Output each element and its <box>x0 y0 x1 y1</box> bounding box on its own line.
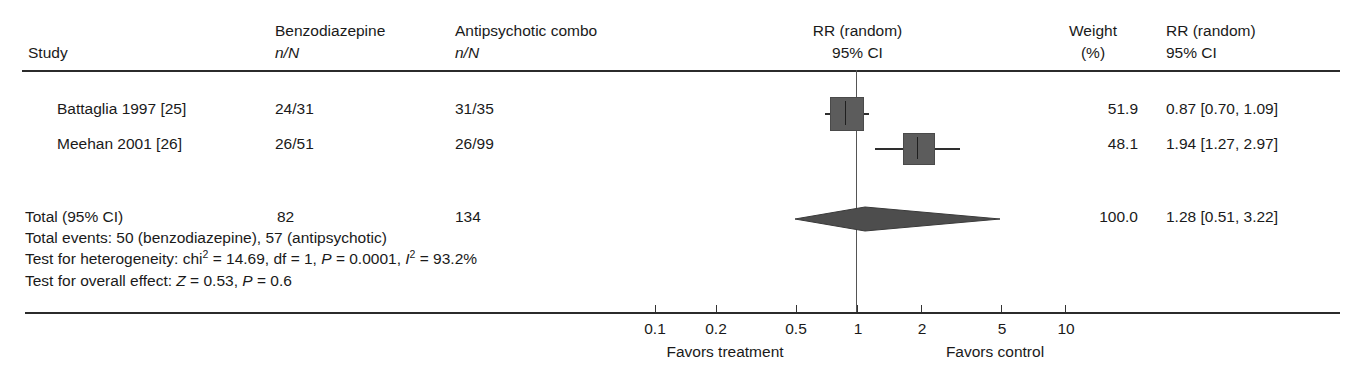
column-header-plot-ci: 95% CI <box>745 44 970 61</box>
study-effect-center-tick <box>917 137 918 159</box>
p-value: = 0.0001, <box>332 250 406 267</box>
axis-tick-label: 2 <box>892 320 952 338</box>
axis-tick-0.1 <box>655 305 656 312</box>
column-header-treatment-group: Benzodiazepine <box>275 22 385 39</box>
axis-tick-label: 5 <box>972 320 1032 338</box>
p-symbol: P <box>242 272 252 289</box>
axis-tick-1 <box>857 305 858 312</box>
heterogeneity-line: Test for heterogeneity: chi2 = 14.69, df… <box>25 250 477 268</box>
total-row-weight-value: 100.0 <box>1040 208 1138 225</box>
heterogeneity-label: Test for heterogeneity: chi <box>25 250 203 267</box>
column-header-control-group: Antipsychotic combo <box>455 22 597 39</box>
total-row-effect-value: 1.28 [0.51, 3.22] <box>1166 208 1278 225</box>
total-row-treatment-value: 82 <box>277 208 294 225</box>
p-symbol: P <box>321 250 331 267</box>
axis-tick-label: 0.2 <box>686 320 746 338</box>
z-symbol: Z <box>176 272 185 289</box>
overall-effect-label: Test for overall effect: <box>25 272 176 289</box>
table-row-weight-value: 51.9 <box>1040 100 1138 117</box>
axis-tick-label: 0.1 <box>625 320 685 338</box>
overall-effect-line: Test for overall effect: Z = 0.53, P = 0… <box>25 272 292 290</box>
forest-plot-figure: Study Benzodiazepine n/N Antipsychotic c… <box>0 0 1360 370</box>
table-row-treatment-value: 24/31 <box>275 100 314 117</box>
column-header-weight-unit: (%) <box>1048 44 1138 61</box>
table-row-study-name: Battaglia 1997 [25] <box>57 100 186 117</box>
overall-p-value: = 0.6 <box>253 272 292 289</box>
z-value: = 0.53, <box>186 272 242 289</box>
axis-tick-label: 1 <box>828 320 888 338</box>
study-effect-marker <box>903 133 935 165</box>
column-header-treatment-nN: n/N <box>275 44 299 61</box>
axis-tick-10 <box>1065 305 1066 312</box>
axis-tick-0.5 <box>796 305 797 312</box>
pooled-effect-diamond <box>795 205 1000 233</box>
column-header-plot-title: RR (random) <box>745 22 970 39</box>
table-row-weight-value: 48.1 <box>1040 135 1138 152</box>
axis-tick-2 <box>921 305 922 312</box>
column-header-effect-ci: 95% CI <box>1166 44 1217 61</box>
study-effect-center-tick <box>845 101 846 125</box>
axis-tick-label: 10 <box>1036 320 1096 338</box>
table-row-control-value: 26/99 <box>455 135 494 152</box>
axis-label-left: Favors treatment <box>630 343 820 360</box>
column-header-effect: RR (random) <box>1166 22 1256 39</box>
table-row-study-name: Meehan 2001 [26] <box>57 135 182 152</box>
column-header-control-nN: n/N <box>455 44 479 61</box>
axis-tick-0.2 <box>716 305 717 312</box>
column-header-study: Study <box>28 44 68 61</box>
chi-value: = 14.69, df = 1, <box>208 250 321 267</box>
table-row-effect-value: 0.87 [0.70, 1.09] <box>1166 100 1278 117</box>
total-events-line: Total events: 50 (benzodiazepine), 57 (a… <box>25 229 387 247</box>
table-row-treatment-value: 26/51 <box>275 135 314 152</box>
study-effect-marker <box>830 97 864 131</box>
table-row-effect-value: 1.94 [1.27, 2.97] <box>1166 135 1278 152</box>
column-header-weight: Weight <box>1048 22 1138 39</box>
total-row-label: Total (95% CI) <box>25 208 123 225</box>
i-squared-value: = 93.2% <box>415 250 477 267</box>
total-row-control-value: 134 <box>455 208 481 225</box>
axis-tick-5 <box>1001 305 1002 312</box>
table-row-control-value: 31/35 <box>455 100 494 117</box>
footer-divider <box>25 312 1340 314</box>
forest-plot-area <box>620 70 1040 315</box>
axis-label-right: Favors control <box>900 343 1090 360</box>
axis-tick-label: 0.5 <box>766 320 826 338</box>
